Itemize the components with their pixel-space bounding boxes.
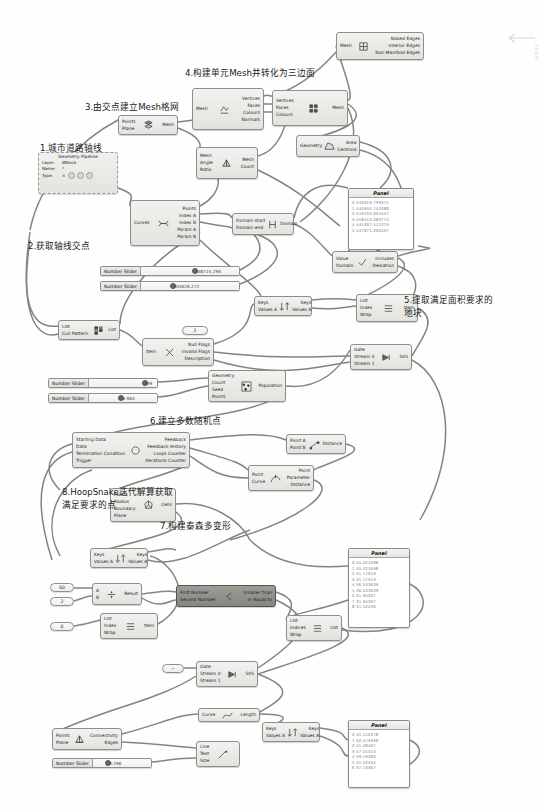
port-label[interactable]: Keys — [301, 300, 311, 306]
port-label[interactable]: Values A — [94, 559, 113, 565]
port-label[interactable]: Wrap — [360, 312, 372, 318]
port-label[interactable]: Index A — [179, 213, 196, 219]
port-label[interactable]: List — [360, 298, 368, 304]
port-label[interactable]: Loops Counter — [154, 451, 186, 457]
port-label[interactable]: Plane — [114, 513, 126, 519]
port-label[interactable]: Cells — [161, 502, 172, 508]
port-label[interactable]: Line — [200, 744, 209, 750]
geometry-pipeline-node[interactable]: Geometry PipelineLayer:ØBlockName:*Type:… — [38, 152, 118, 194]
port-label[interactable]: Wrap — [290, 632, 302, 638]
port-label[interactable]: Index B — [179, 220, 196, 226]
port-label[interactable]: Mesh — [242, 157, 254, 163]
port-label[interactable]: Curves — [134, 220, 150, 226]
port-label[interactable]: Population — [258, 383, 282, 389]
list-item-node-2[interactable]: ListIndexWrapItem — [100, 613, 158, 639]
port-label[interactable]: List — [108, 327, 116, 333]
text-tag-node[interactable]: LineTextSize — [196, 741, 240, 767]
port-label[interactable]: Geometry — [300, 143, 322, 149]
port-label[interactable]: Non-Manifold Edges — [375, 50, 420, 56]
port-label[interactable]: Description — [184, 356, 210, 362]
port-label[interactable]: or Equal to — [248, 597, 273, 603]
port-label[interactable]: Wrap — [104, 630, 116, 636]
port-label[interactable]: Interior Edges — [389, 43, 420, 49]
port-label[interactable]: Param B — [177, 234, 196, 240]
port-label[interactable]: Size — [200, 758, 209, 764]
port-label[interactable]: Points — [183, 206, 197, 212]
pipeline-type-icon[interactable] — [68, 172, 75, 179]
port-label[interactable]: Feedback History — [147, 444, 186, 450]
port-label[interactable]: Values A — [258, 307, 277, 313]
port-label[interactable]: Text — [200, 751, 209, 757]
port-label[interactable]: Values A — [266, 733, 285, 739]
port-label[interactable]: Keys — [266, 726, 276, 732]
grasshopper-canvas[interactable]: ZOOM MeshNaked EdgesInterior EdgesNon-Ma… — [0, 0, 545, 811]
port-label[interactable]: List — [104, 616, 112, 622]
mesh-grid-node[interactable]: PointsPlaneMesh — [118, 115, 178, 135]
curve-curve-intersection-node[interactable]: CurvesPointsIndex AIndex BParam AParam B — [130, 200, 200, 246]
number-slider-3[interactable]: Number Slider399 — [48, 378, 158, 388]
port-label[interactable]: Stream 1 — [354, 361, 374, 367]
port-label[interactable]: Points — [122, 119, 136, 125]
port-label[interactable]: Point — [252, 472, 263, 478]
port-label[interactable]: Mesh — [332, 105, 344, 111]
panel-coordinates-top[interactable]: Panel0 449319.7993711 445956.7423882 519… — [348, 188, 414, 250]
port-label[interactable]: Values A — [292, 307, 311, 313]
port-label[interactable]: Includes — [375, 256, 394, 262]
curve-closest-point-node[interactable]: PointCurvePointParameterDistance — [248, 465, 314, 491]
number-slider-4[interactable]: Number Slider40.964 — [48, 393, 158, 403]
port-label[interactable]: Geometry — [212, 373, 234, 379]
port-label[interactable]: Iterations Counter — [145, 458, 186, 464]
number-slider-1[interactable]: Number Slider448714.296 — [100, 266, 240, 276]
port-label[interactable]: Stream 1 — [200, 678, 220, 684]
value-box-2[interactable]: 2 — [50, 597, 74, 606]
port-label[interactable]: Vertices — [242, 96, 260, 102]
port-label[interactable]: Keys — [137, 552, 147, 558]
port-label[interactable]: Normals — [241, 117, 260, 123]
port-label[interactable]: Data — [76, 444, 87, 450]
deconstruct-mesh-node[interactable]: MeshVerticesFacesColoursNormals — [192, 88, 264, 130]
number-slider-2[interactable]: Number Slider604626.272 — [100, 281, 240, 291]
null-item-node[interactable]: ItemNull FlagsInvalid FlagsDescription — [142, 338, 214, 366]
port-label[interactable]: List — [62, 324, 70, 330]
port-label[interactable]: Null Flags — [188, 342, 210, 348]
port-label[interactable]: S0S — [399, 354, 408, 360]
port-label[interactable]: Domain start — [236, 218, 265, 224]
pipeline-type-icon[interactable] — [77, 172, 84, 179]
gate-stream-node-2[interactable]: GateStream 0Stream 1S0S — [196, 661, 258, 687]
pipeline-type-icon[interactable] — [86, 172, 93, 179]
port-label[interactable]: Feedback — [165, 437, 186, 443]
port-label[interactable]: Keys — [309, 726, 319, 732]
port-label[interactable]: Area — [346, 140, 356, 146]
port-label[interactable]: Parameter — [287, 475, 310, 481]
port-label[interactable]: Smaller than — [243, 590, 272, 596]
populate-geometry-node[interactable]: GeometryCountSeedPointsPopulation — [208, 370, 286, 402]
port-label[interactable]: Keys — [258, 300, 268, 306]
port-label[interactable]: A — [96, 588, 99, 594]
port-label[interactable]: Centroid — [337, 147, 356, 153]
port-label[interactable]: Keys — [94, 552, 104, 558]
area-node[interactable]: GeometryAreaCentroid — [296, 135, 360, 157]
slider-track[interactable]: 604626.272 — [141, 282, 239, 290]
port-label[interactable]: Distance — [322, 441, 342, 447]
port-label[interactable]: Deviation — [373, 263, 394, 269]
port-label[interactable]: Domain end — [236, 225, 263, 231]
port-label[interactable]: Mesh — [200, 153, 212, 159]
port-label[interactable]: Radius — [114, 499, 129, 505]
sort-list-node-2[interactable]: KeysValues AKeysValues A — [90, 548, 148, 568]
construct-mesh-node[interactable]: VerticesFacesColoursMesh — [272, 90, 348, 126]
port-label[interactable]: Point A — [290, 438, 306, 444]
curve-length-node[interactable]: CurveLength — [198, 708, 260, 722]
port-label[interactable]: Point — [299, 468, 310, 474]
slider-track[interactable]: 399 — [89, 379, 157, 387]
slider-track[interactable]: 10.296 — [93, 759, 151, 767]
port-label[interactable]: Domain — [336, 263, 353, 269]
port-label[interactable]: Index — [360, 305, 372, 311]
distance-node[interactable]: Point APoint BDistance — [286, 434, 346, 454]
port-label[interactable]: Result — [124, 591, 138, 597]
value-box-0[interactable]: 0 — [50, 622, 74, 631]
port-label[interactable]: Boundary — [114, 506, 136, 512]
port-label[interactable]: Stream 0 — [200, 671, 220, 677]
mesh-edges-node[interactable]: MeshNaked EdgesInterior EdgesNon-Manifol… — [336, 32, 424, 60]
port-label[interactable]: Cull Pattern — [62, 331, 88, 337]
port-label[interactable]: B — [96, 595, 99, 601]
